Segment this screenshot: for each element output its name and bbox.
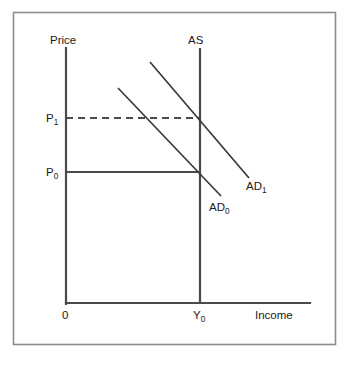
p0-axis-label: P0 (46, 166, 59, 181)
p1-axis-label: P1 (46, 112, 59, 127)
ad1-curve-label: AD1 (246, 180, 267, 195)
y0-axis-label: Y0 (193, 309, 206, 324)
x-axis-label: Income (255, 309, 293, 321)
ad0-curve-line (118, 88, 221, 196)
ad-as-diagram: Price AS P1 P0 AD1 AD0 0 Y0 Income (0, 0, 350, 365)
origin-label: 0 (62, 309, 68, 321)
figure-frame-border (14, 13, 336, 345)
y-axis-label: Price (50, 34, 76, 46)
figure-container: Price AS P1 P0 AD1 AD0 0 Y0 Income (0, 0, 350, 365)
as-curve-label: AS (188, 34, 204, 46)
ad0-curve-label: AD0 (209, 201, 230, 216)
